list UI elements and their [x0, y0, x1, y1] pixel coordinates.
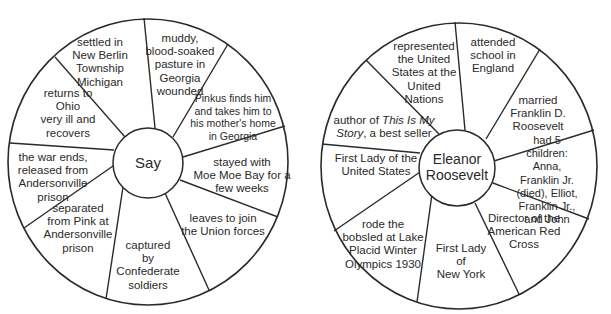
segment-label: rode the bobsled at Lake Placid Winter O… — [342, 218, 423, 271]
segment-label: returns to Ohio very ill and recovers — [41, 87, 96, 140]
segment-label: First Lady of the United States — [335, 152, 417, 178]
segment-label: muddy, blood-soaked pasture in Georgia w… — [145, 32, 214, 98]
segment-label: married Franklin D. Roosevelt — [510, 94, 566, 134]
segment-label: separated from Pink at Andersonville pri… — [43, 202, 112, 255]
center-label-eleanor-roosevelt: Eleanor Roosevelt — [426, 151, 488, 183]
segment-label: represented the United States at the Uni… — [392, 40, 457, 106]
segment-label: leaves to join the Union forces — [181, 212, 265, 238]
spoke-diagrams: Say settled in New Berlin Township Michi… — [0, 0, 611, 314]
segment-label: settled in New Berlin Township Michigan — [72, 36, 128, 89]
spoke-line — [10, 143, 114, 150]
segment-label: the war ends, released from Andersonvill… — [18, 151, 88, 204]
segment-label: Director of the American Red Cross — [488, 212, 561, 252]
segment-label: author of This Is My Story, a best selle… — [334, 114, 435, 140]
center-label-say: Say — [135, 154, 161, 171]
segment-label: attended school in England — [470, 36, 515, 76]
spoke-line — [455, 22, 465, 130]
segment-label: stayed with Moe Moe Bay for a few weeks — [193, 156, 290, 196]
segment-label: Pinkus finds him and takes him to his mo… — [190, 92, 275, 142]
segment-label: captured by Confederate soldiers — [116, 239, 179, 292]
segment-label: First Lady of New York — [436, 242, 487, 282]
